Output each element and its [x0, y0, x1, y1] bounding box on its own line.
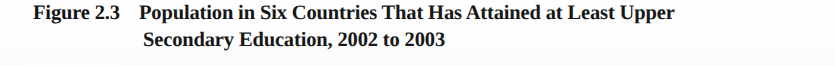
- figure-title-line-2: Secondary Education, 2002 to 2003: [143, 29, 445, 52]
- caption-line-2: Secondary Education, 2002 to 2003: [143, 29, 445, 52]
- figure-number-label: Figure 2.3: [33, 2, 120, 25]
- scan-artifact: [25, 61, 120, 66]
- caption-line-1: Figure 2.3Population in Six Countries Th…: [33, 2, 675, 25]
- figure-title-line-1: Population in Six Countries That Has Att…: [139, 2, 675, 25]
- figure-caption-block: Figure 2.3Population in Six Countries Th…: [0, 0, 835, 66]
